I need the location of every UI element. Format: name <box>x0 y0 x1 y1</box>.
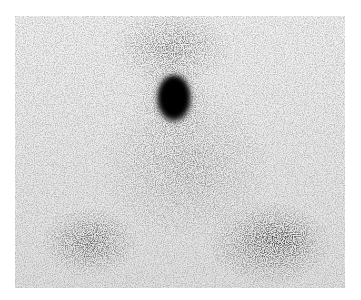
scan-canvas <box>0 0 361 300</box>
lower-left-uptake-region <box>42 208 138 276</box>
scintigraphy-image <box>0 0 361 300</box>
